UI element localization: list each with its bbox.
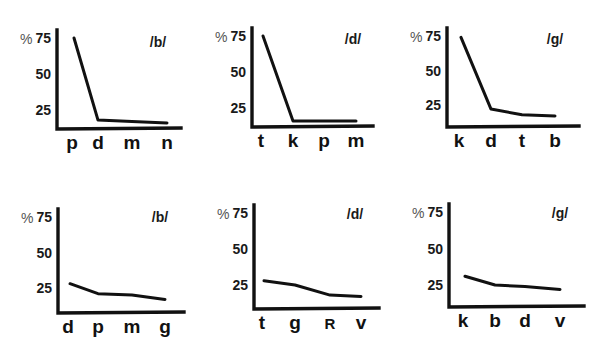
- y-axis-unit-label: %: [20, 31, 32, 47]
- x-tick-label: n: [161, 132, 173, 153]
- y-tick-label: 25: [230, 100, 246, 116]
- figure-canvas: 255075%/b/pdmn255075%/d/tkpm255075%/g/kd…: [0, 0, 608, 352]
- y-tick-label: 50: [36, 245, 52, 261]
- y-axis-unit-label: %: [21, 210, 33, 226]
- x-tick-label: k: [458, 310, 469, 331]
- panel-title: /g/: [547, 31, 563, 47]
- confusion-line: [263, 36, 356, 121]
- y-tick-label: 75: [35, 30, 51, 46]
- x-tick-label: v: [356, 312, 367, 333]
- x-tick-label: t: [259, 312, 266, 333]
- y-tick-label: 25: [36, 280, 52, 296]
- x-tick-label: g: [289, 312, 301, 333]
- chart-panel-top-right: 255075%/g/kdtb: [410, 28, 579, 151]
- x-tick-label: k: [288, 130, 299, 151]
- x-tick-label: g: [159, 316, 171, 337]
- x-tick-label: d: [92, 132, 104, 153]
- x-tick-label: p: [318, 130, 330, 151]
- chart-panel-top-middle: 255075%/d/tkpm: [215, 28, 373, 151]
- y-tick-label: 50: [232, 241, 248, 257]
- confusion-line: [461, 37, 555, 116]
- panel-title: /d/: [345, 31, 361, 47]
- confusion-line: [465, 276, 560, 289]
- y-tick-label: 50: [427, 241, 443, 257]
- y-tick-label: 25: [425, 97, 441, 113]
- y-axis-unit-label: %: [217, 206, 229, 222]
- panel-title: /d/: [347, 206, 363, 222]
- y-tick-label: 25: [35, 102, 51, 118]
- panel-title: /g/: [552, 205, 568, 221]
- y-tick-label: 75: [230, 28, 246, 44]
- x-tick-label: t: [258, 130, 265, 151]
- chart-panel-top-left: 255075%/b/pdmn: [20, 30, 181, 153]
- y-axis-unit-label: %: [412, 205, 424, 221]
- panel-title: /b/: [150, 34, 166, 50]
- x-tick-label: p: [92, 316, 104, 337]
- x-tick-label: m: [124, 316, 141, 337]
- x-tick-label: R: [325, 315, 336, 332]
- y-axis-unit-label: %: [215, 29, 227, 45]
- y-tick-label: 75: [232, 205, 248, 221]
- y-tick-label: 75: [36, 209, 52, 225]
- y-tick-label: 50: [35, 66, 51, 82]
- panel-title: /b/: [152, 209, 168, 225]
- x-tick-label: m: [348, 130, 365, 151]
- x-tick-label: m: [124, 132, 141, 153]
- y-tick-label: 25: [232, 277, 248, 293]
- confusion-line: [264, 281, 361, 297]
- y-tick-label: 50: [230, 64, 246, 80]
- x-tick-label: b: [549, 130, 561, 151]
- x-tick-label: d: [62, 316, 74, 337]
- x-tick-label: p: [66, 132, 78, 153]
- confusion-line: [74, 38, 167, 123]
- chart-panel-bottom-left: 255075%/b/dpmg: [21, 209, 184, 337]
- chart-panel-bottom-middle: 255075%/d/tgRv: [217, 205, 379, 333]
- x-tick-label: d: [485, 130, 497, 151]
- x-tick-label: t: [519, 130, 526, 151]
- x-tick-label: b: [489, 310, 501, 331]
- x-tick-label: v: [555, 310, 566, 331]
- y-tick-label: 75: [425, 28, 441, 44]
- x-tick-label: k: [454, 130, 465, 151]
- y-tick-label: 50: [425, 63, 441, 79]
- y-tick-label: 25: [427, 277, 443, 293]
- x-tick-label: d: [519, 310, 531, 331]
- confusion-line: [70, 284, 165, 300]
- chart-panel-bottom-right: 255075%/g/kbdv: [412, 204, 584, 331]
- y-tick-label: 75: [427, 204, 443, 220]
- y-axis-unit-label: %: [410, 29, 422, 45]
